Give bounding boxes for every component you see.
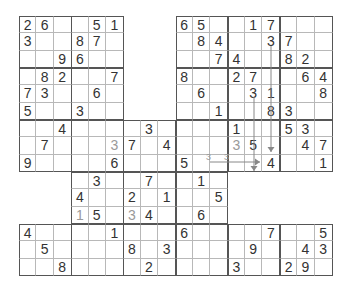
sudoku-cell-r2-c2[interactable]: 9 (54, 51, 72, 69)
sudoku-cell-r7-c12[interactable]: 3 (228, 137, 245, 154)
sudoku-cell-r1-c9[interactable] (176, 33, 193, 50)
sudoku-cell-r5-c3[interactable]: 3 (71, 103, 88, 121)
sudoku-cell-r8-c7[interactable] (141, 155, 158, 173)
sudoku-cell-r8-c14[interactable]: 4 (262, 155, 280, 173)
sudoku-cell-r3-c15[interactable] (280, 68, 297, 85)
sudoku-cell-r12-c2[interactable] (54, 224, 72, 241)
sudoku-cell-r4-c5[interactable] (106, 85, 124, 102)
sudoku-cell-r5-c5[interactable] (106, 103, 124, 121)
sudoku-cell-r11-c7[interactable]: 4 (141, 207, 158, 225)
sudoku-cell-r13-c14[interactable] (262, 241, 280, 258)
sudoku-cell-r14-c12[interactable]: 3 (228, 259, 245, 277)
sudoku-cell-r5-c12[interactable] (228, 103, 245, 121)
sudoku-cell-r11-c5[interactable] (106, 207, 124, 225)
sudoku-cell-r1-c1[interactable] (36, 33, 53, 50)
sudoku-cell-r1-c4[interactable]: 7 (89, 33, 106, 50)
sudoku-cell-r1-c15[interactable]: 7 (280, 33, 297, 50)
sudoku-cell-r4-c0[interactable]: 7 (19, 85, 36, 102)
sudoku-cell-r4-c14[interactable]: 1 (262, 85, 280, 102)
sudoku-cell-r10-c8[interactable]: 1 (158, 189, 176, 206)
sudoku-cell-r14-c9[interactable] (176, 259, 193, 277)
sudoku-cell-r11-c4[interactable]: 5 (89, 207, 106, 225)
sudoku-cell-r11-c11[interactable] (210, 207, 228, 225)
sudoku-cell-r3-c0[interactable] (19, 68, 36, 85)
sudoku-cell-r3-c5[interactable]: 7 (106, 68, 124, 85)
sudoku-cell-r8-c17[interactable]: 1 (315, 155, 333, 173)
sudoku-cell-r14-c16[interactable]: 9 (297, 259, 314, 277)
sudoku-cell-r12-c16[interactable] (297, 224, 314, 241)
sudoku-cell-r2-c13[interactable] (245, 51, 262, 69)
sudoku-cell-r12-c1[interactable] (36, 224, 53, 241)
sudoku-cell-r2-c17[interactable] (315, 51, 333, 69)
sudoku-cell-r14-c14[interactable] (262, 259, 280, 277)
sudoku-cell-r0-c14[interactable]: 7 (262, 16, 280, 33)
sudoku-cell-r4-c11[interactable] (210, 85, 228, 102)
sudoku-cell-r0-c4[interactable]: 5 (89, 16, 106, 33)
sudoku-cell-r0-c0[interactable]: 2 (19, 16, 36, 33)
sudoku-cell-r7-c3[interactable] (71, 137, 88, 154)
sudoku-cell-r14-c6[interactable] (123, 259, 140, 277)
sudoku-cell-r4-c2[interactable] (54, 85, 72, 102)
sudoku-cell-r12-c7[interactable] (141, 224, 158, 241)
sudoku-cell-r6-c14[interactable] (262, 120, 280, 137)
sudoku-cell-r5-c10[interactable] (193, 103, 210, 121)
sudoku-cell-r4-c17[interactable]: 8 (315, 85, 333, 102)
sudoku-cell-r4-c13[interactable]: 3 (245, 85, 262, 102)
sudoku-cell-r13-c9[interactable] (176, 241, 193, 258)
sudoku-cell-r5-c14[interactable]: 8 (262, 103, 280, 121)
sudoku-cell-r13-c6[interactable]: 8 (123, 241, 140, 258)
sudoku-cell-r6-c8[interactable] (158, 120, 176, 137)
sudoku-cell-r7-c7[interactable] (141, 137, 158, 154)
sudoku-cell-r7-c2[interactable] (54, 137, 72, 154)
sudoku-cell-r7-c17[interactable]: 7 (315, 137, 333, 154)
sudoku-cell-r11-c10[interactable]: 6 (193, 207, 210, 225)
sudoku-cell-r13-c7[interactable] (141, 241, 158, 258)
sudoku-cell-r9-c9[interactable] (176, 172, 193, 189)
sudoku-cell-r13-c15[interactable] (280, 241, 297, 258)
sudoku-cell-r8-c1[interactable] (36, 155, 53, 173)
sudoku-cell-r12-c4[interactable] (89, 224, 106, 241)
sudoku-cell-r0-c16[interactable] (297, 16, 314, 33)
sudoku-cell-r1-c14[interactable]: 3 (262, 33, 280, 50)
sudoku-cell-r11-c3[interactable]: 1 (71, 207, 88, 225)
sudoku-cell-r2-c10[interactable] (193, 51, 210, 69)
sudoku-cell-r3-c3[interactable] (71, 68, 88, 85)
sudoku-cell-r8-c2[interactable] (54, 155, 72, 173)
sudoku-cell-r6-c5[interactable] (106, 120, 124, 137)
sudoku-cell-r0-c9[interactable]: 6 (176, 16, 193, 33)
sudoku-cell-r14-c4[interactable] (89, 259, 106, 277)
sudoku-cell-r14-c0[interactable] (19, 259, 36, 277)
sudoku-cell-r14-c13[interactable] (245, 259, 262, 277)
sudoku-cell-r10-c11[interactable]: 5 (210, 189, 228, 206)
sudoku-cell-r3-c4[interactable] (89, 68, 106, 85)
sudoku-cell-r4-c1[interactable]: 3 (36, 85, 53, 102)
sudoku-cell-r10-c3[interactable]: 4 (71, 189, 88, 206)
sudoku-cell-r4-c9[interactable] (176, 85, 193, 102)
sudoku-cell-r12-c6[interactable] (123, 224, 140, 241)
sudoku-cell-r13-c11[interactable] (210, 241, 228, 258)
sudoku-cell-r1-c16[interactable] (297, 33, 314, 50)
sudoku-cell-r3-c14[interactable] (262, 68, 280, 85)
sudoku-cell-r8-c16[interactable] (297, 155, 314, 173)
sudoku-cell-r11-c8[interactable] (158, 207, 176, 225)
sudoku-cell-r5-c1[interactable] (36, 103, 53, 121)
sudoku-cell-r1-c10[interactable]: 8 (193, 33, 210, 50)
sudoku-cell-r8-c15[interactable] (280, 155, 297, 173)
sudoku-cell-r13-c4[interactable] (89, 241, 106, 258)
sudoku-cell-r8-c4[interactable] (89, 155, 106, 173)
sudoku-cell-r11-c9[interactable] (176, 207, 193, 225)
sudoku-cell-r12-c14[interactable]: 7 (262, 224, 280, 241)
sudoku-cell-r13-c16[interactable]: 4 (297, 241, 314, 258)
sudoku-cell-r0-c1[interactable]: 6 (36, 16, 53, 33)
sudoku-cell-r8-c13[interactable] (245, 155, 262, 173)
sudoku-cell-r2-c14[interactable] (262, 51, 280, 69)
sudoku-cell-r7-c6[interactable]: 7 (123, 137, 140, 154)
sudoku-cell-r14-c2[interactable]: 8 (54, 259, 72, 277)
sudoku-cell-r5-c16[interactable] (297, 103, 314, 121)
sudoku-cell-r13-c0[interactable] (19, 241, 36, 258)
sudoku-cell-r9-c4[interactable]: 3 (89, 172, 106, 189)
sudoku-cell-r12-c8[interactable] (158, 224, 176, 241)
sudoku-cell-r12-c10[interactable] (193, 224, 210, 241)
sudoku-cell-r2-c12[interactable]: 4 (228, 51, 245, 69)
sudoku-cell-r1-c12[interactable] (228, 33, 245, 50)
